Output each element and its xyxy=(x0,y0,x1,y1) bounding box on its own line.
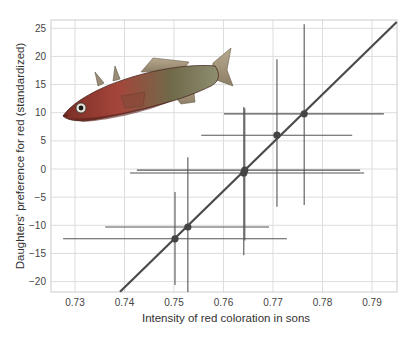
data-point xyxy=(241,167,248,174)
x-tick-label: 0.76 xyxy=(214,297,234,308)
y-tick-label: −15 xyxy=(29,248,46,259)
x-tick-label: 0.75 xyxy=(164,297,184,308)
x-tick-label: 0.74 xyxy=(115,297,135,308)
y-axis-ticks: 2520151050−5−10−15−20 xyxy=(29,23,46,287)
y-tick-label: 15 xyxy=(35,79,47,90)
y-axis-label: Daughters' preference for red (standardi… xyxy=(14,43,26,270)
data-point xyxy=(273,132,280,139)
y-tick-label: 25 xyxy=(35,23,47,34)
x-tick-label: 0.77 xyxy=(263,297,283,308)
y-tick-label: −20 xyxy=(29,276,46,287)
data-point xyxy=(184,223,191,230)
x-tick-label: 0.78 xyxy=(313,297,333,308)
y-tick-label: 0 xyxy=(40,164,46,175)
y-tick-label: 5 xyxy=(40,135,46,146)
y-tick-label: 20 xyxy=(35,51,47,62)
data-point xyxy=(171,235,178,242)
x-tick-label: 0.79 xyxy=(362,297,382,308)
y-tick-label: −10 xyxy=(29,220,46,231)
x-axis-ticks: 0.730.740.750.760.770.780.79 xyxy=(65,297,382,308)
y-tick-label: −5 xyxy=(35,192,47,203)
x-axis-label: Intensity of red coloration in sons xyxy=(142,312,310,324)
y-tick-label: 10 xyxy=(35,107,47,118)
data-point xyxy=(301,110,308,117)
chart: 0.730.740.750.760.770.780.79 2520151050−… xyxy=(0,0,411,338)
x-tick-label: 0.73 xyxy=(65,297,85,308)
